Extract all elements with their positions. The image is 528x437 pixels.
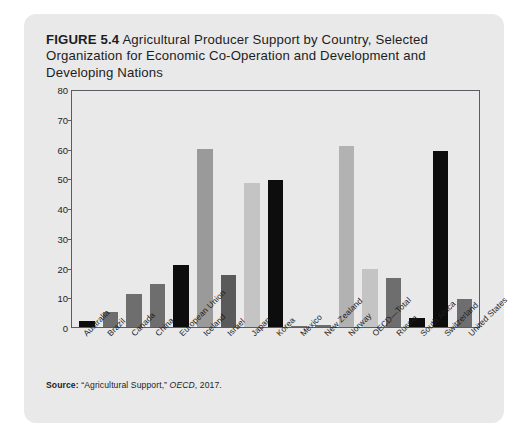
y-axis-tick-label: 80	[57, 85, 68, 96]
bar-slot	[169, 91, 193, 327]
bar-slot	[311, 91, 335, 327]
bar-japan	[244, 183, 260, 327]
bar-slot	[99, 91, 123, 327]
source-note: Source: “Agricultural Support,” OECD, 20…	[46, 380, 222, 390]
bar-slot	[429, 91, 453, 327]
bar-slot	[405, 91, 429, 327]
y-axis-tick-label: 50	[57, 174, 68, 185]
source-publication: OECD	[170, 380, 195, 390]
y-axis-tick-mark	[68, 298, 72, 299]
y-axis-tick-mark	[68, 150, 72, 151]
y-axis-tick-label: 70	[57, 114, 68, 125]
y-axis: 01020304050607080	[46, 90, 68, 328]
bar-slot	[122, 91, 146, 327]
y-axis-tick-label: 40	[57, 204, 68, 215]
bar-slot	[382, 91, 406, 327]
bar-slot	[146, 91, 170, 327]
figure-card: FIGURE 5.4 Agricultural Producer Support…	[24, 14, 504, 423]
source-label: Source:	[46, 380, 79, 390]
bars-layer	[72, 91, 479, 327]
y-axis-tick-label: 0	[63, 323, 68, 334]
bar-slot	[75, 91, 99, 327]
y-axis-tick-mark	[68, 179, 72, 180]
y-axis-tick-mark	[68, 209, 72, 210]
bar-slot	[264, 91, 288, 327]
source-year: , 2017.	[195, 380, 222, 390]
plot-area	[71, 90, 480, 328]
y-axis-tick-mark	[68, 239, 72, 240]
figure-title: FIGURE 5.4 Agricultural Producer Support…	[46, 32, 476, 81]
bar-korea	[268, 180, 284, 327]
source-text: “Agricultural Support,”	[81, 380, 167, 390]
bar-european-union	[173, 265, 189, 327]
bar-slot	[193, 91, 217, 327]
figure-number: FIGURE 5.4	[46, 32, 119, 47]
bar-slot	[453, 91, 477, 327]
y-axis-tick-mark	[68, 120, 72, 121]
y-axis-tick-label: 60	[57, 144, 68, 155]
bar-slot	[287, 91, 311, 327]
bar-switzerland	[433, 151, 449, 327]
y-axis-tick-label: 10	[57, 293, 68, 304]
y-axis-tick-label: 30	[57, 233, 68, 244]
bar-slot	[335, 91, 359, 327]
y-axis-tick-mark	[68, 269, 72, 270]
bar-slot	[240, 91, 264, 327]
y-axis-tick-label: 20	[57, 263, 68, 274]
chart-plot-wrapper: 01020304050607080 AustraliaBrazilCanadaC…	[46, 90, 482, 350]
bar-slot	[358, 91, 382, 327]
